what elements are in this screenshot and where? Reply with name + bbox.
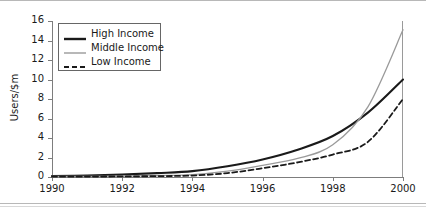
legend-item-high-income: High Income (64, 27, 155, 41)
page-rule-bottom (0, 203, 426, 204)
legend-label-low-income: Low Income (91, 57, 151, 67)
x-tick-label: 2000 (390, 183, 415, 194)
legend-swatch-high-income (64, 29, 86, 39)
y-tick-label: 8 (38, 92, 44, 103)
legend-item-middle-income: Middle Income (64, 41, 155, 55)
x-tick-label: 1990 (39, 183, 64, 194)
y-tick-label: 6 (38, 112, 44, 123)
x-tick-label: 1998 (320, 183, 345, 194)
legend-label-high-income: High Income (91, 29, 154, 39)
y-tick-label: 14 (31, 34, 44, 45)
legend-item-low-income: Low Income (64, 55, 155, 69)
x-tick (403, 177, 404, 181)
y-tick-label: 0 (38, 170, 44, 181)
y-axis-label: Users/$m (9, 53, 20, 143)
x-tick-label: 1992 (109, 183, 134, 194)
legend-swatch-middle-income (64, 43, 86, 53)
series-line-low-income (52, 99, 403, 177)
chart-legend: High Income Middle Income Low Income (58, 23, 161, 71)
page-rule-bottom-secondary (0, 206, 426, 207)
legend-swatch-low-income (64, 57, 86, 67)
y-tick-label: 2 (38, 151, 44, 162)
chart-figure: Users/$m 0246810121416 19901992199419961… (0, 0, 426, 218)
y-tick-label: 12 (31, 53, 44, 64)
y-tick-label: 16 (31, 14, 44, 25)
x-tick-label: 1994 (180, 183, 205, 194)
y-tick-label: 10 (31, 73, 44, 84)
y-tick-label: 4 (38, 131, 44, 142)
legend-label-middle-income: Middle Income (91, 43, 164, 53)
page-rule-top (0, 0, 426, 1)
series-line-high-income (52, 80, 403, 177)
x-tick-label: 1996 (250, 183, 275, 194)
